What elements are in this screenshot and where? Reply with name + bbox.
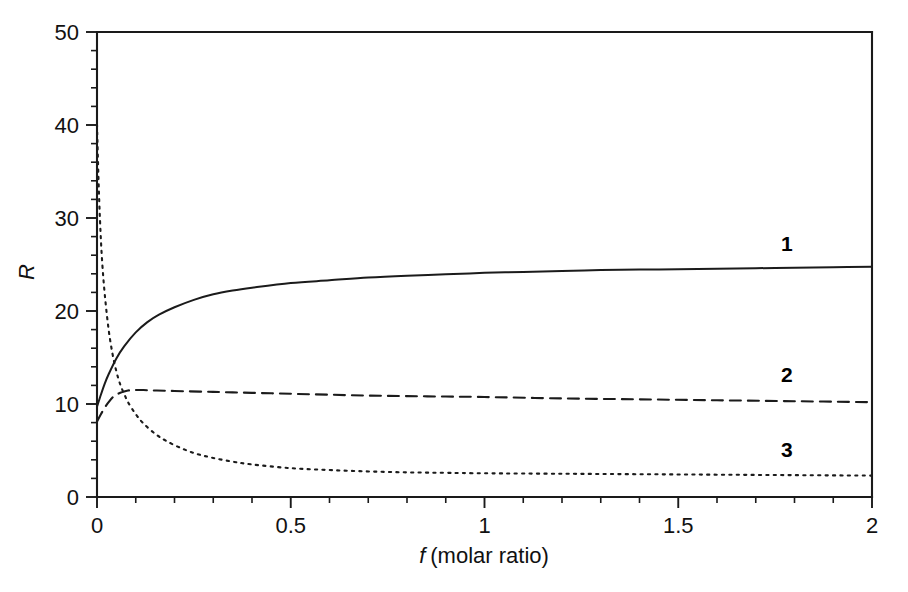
x-axis-title-symbol: f xyxy=(419,543,428,568)
y-tick-group xyxy=(86,32,97,497)
y-tick-label: 20 xyxy=(55,299,79,324)
x-tick-group xyxy=(97,497,872,508)
series-line-1 xyxy=(97,267,872,407)
curve-annotation-group: 123 xyxy=(781,232,793,461)
curve-label-3: 3 xyxy=(781,438,793,461)
x-axis-title-text: (molar ratio) xyxy=(430,543,549,568)
y-axis-title: R xyxy=(14,264,39,280)
x-tick-label: 2 xyxy=(866,513,878,538)
series-line-2 xyxy=(97,390,872,422)
x-tick-label: 0 xyxy=(91,513,103,538)
figure-root: 01020304050 00.511.52 123 f(molar ratio)… xyxy=(0,0,908,592)
axis-group xyxy=(97,32,872,497)
x-tick-label: 1.5 xyxy=(663,513,694,538)
curve-label-2: 2 xyxy=(781,363,793,386)
series-group xyxy=(97,125,872,476)
series-line-3 xyxy=(97,125,872,476)
x-tick-label-group: 00.511.52 xyxy=(91,513,878,538)
y-tick-label: 30 xyxy=(55,206,79,231)
x-tick-label: 1 xyxy=(478,513,490,538)
y-tick-label: 50 xyxy=(55,20,79,45)
chart-canvas: 01020304050 00.511.52 123 f(molar ratio)… xyxy=(0,0,908,592)
y-tick-label-group: 01020304050 xyxy=(55,20,79,510)
y-tick-label: 40 xyxy=(55,113,79,138)
x-axis-title: f(molar ratio) xyxy=(419,543,549,568)
y-tick-label: 0 xyxy=(67,485,79,510)
y-tick-label: 10 xyxy=(55,392,79,417)
x-tick-label: 0.5 xyxy=(275,513,306,538)
curve-label-1: 1 xyxy=(781,232,793,255)
